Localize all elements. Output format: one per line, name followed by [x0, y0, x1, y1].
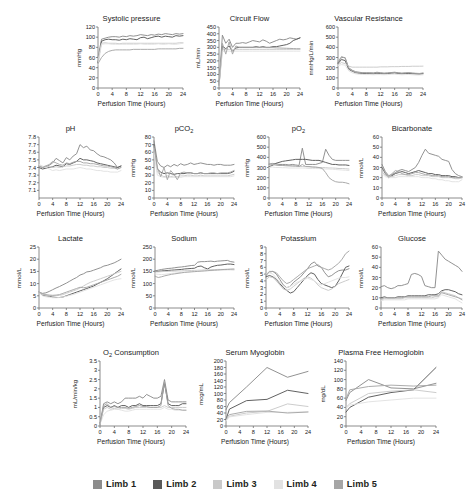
- x-tick-label: 4: [161, 311, 175, 317]
- x-tick-label: 16: [428, 201, 442, 207]
- panel-lactate: Lactate051015202504812162024mmol/LPerfus…: [14, 234, 127, 334]
- x-tick-label: 4: [354, 429, 368, 435]
- x-tick-label: 0: [93, 429, 107, 435]
- series-line: [219, 51, 300, 86]
- x-axis-label-sodium: Perfusion Time (Hours): [128, 320, 240, 327]
- x-tick-label: 4: [105, 91, 119, 97]
- x-tick-label: 24: [179, 429, 193, 435]
- x-tick-label: 12: [415, 201, 429, 207]
- x-tick-label: 0: [331, 91, 345, 97]
- x-tick-label: 24: [416, 91, 430, 97]
- x-tick-label: 16: [274, 429, 288, 435]
- x-tick-label: 24: [455, 311, 469, 317]
- y-tick-label: 3: [70, 367, 97, 373]
- x-tick-label: 0: [148, 311, 162, 317]
- y-tick-label: 7.6: [14, 149, 36, 155]
- legend-swatch-icon: [213, 480, 222, 489]
- figure-legend: Limb 1Limb 2Limb 3Limb 4Limb 5: [0, 479, 470, 489]
- x-axis-label-circuit-flow: Perfusion Time (Hours): [193, 100, 306, 107]
- x-tick-label: 12: [260, 429, 274, 435]
- x-tick-label: 24: [455, 201, 469, 207]
- series-line: [346, 398, 436, 408]
- x-tick-label: 0: [219, 429, 233, 435]
- x-tick-label: 20: [329, 201, 343, 207]
- legend-item-5: Limb 5: [334, 479, 377, 489]
- y-tick-label: 7.8: [14, 134, 36, 140]
- multi-panel-figure: Systolic pressure02040608010012004812162…: [0, 0, 470, 501]
- y-tick-label: 80: [128, 134, 151, 140]
- x-tick-label: 12: [374, 91, 388, 97]
- legend-swatch-icon: [274, 480, 283, 489]
- x-axis-label-bicarbonate: Perfusion Time (Hours): [356, 210, 468, 217]
- x-tick-label: 20: [402, 91, 416, 97]
- x-axis-label-vascular-resistance: Perfusion Time (Hours): [306, 100, 431, 107]
- panel-serum-myoglobin: Serum Myoglobin0204060801001201401601802…: [196, 348, 314, 452]
- x-tick-label: 8: [359, 91, 373, 97]
- y-axis-label-circuit-flow: mL/min: [194, 47, 201, 67]
- series-line: [100, 380, 186, 425]
- x-tick-label: 16: [87, 201, 101, 207]
- x-tick-label: 16: [315, 201, 329, 207]
- x-axis-label-pco2: Perfusion Time (Hours): [128, 210, 240, 217]
- x-tick-label: 12: [415, 311, 429, 317]
- x-tick-label: 24: [227, 311, 241, 317]
- x-tick-label: 16: [266, 91, 280, 97]
- series-line: [338, 58, 423, 74]
- x-axis-label-serum-myoglobin: Perfusion Time (Hours): [196, 438, 314, 445]
- x-tick-label: 8: [401, 311, 415, 317]
- legend-swatch-icon: [153, 480, 162, 489]
- panel-systolic-pressure: Systolic pressure02040608010012004812162…: [74, 14, 189, 114]
- x-tick-label: 20: [100, 311, 114, 317]
- y-tick-label: 0.5: [70, 414, 97, 420]
- x-tick-label: 8: [289, 201, 303, 207]
- panel-plasma-free-hemoglobin: Plasma Free Hemoglobin020406080100120140…: [318, 348, 444, 452]
- x-tick-label: 4: [275, 201, 289, 207]
- x-axis-label-systolic-pressure: Perfusion Time (Hours): [74, 100, 189, 107]
- y-tick-label: 40: [196, 410, 223, 416]
- y-tick-label: 25: [14, 244, 36, 250]
- x-tick-label: 0: [32, 311, 46, 317]
- series-line: [219, 49, 300, 86]
- panel-ph: pH07.17.27.37.47.57.67.77.804812162024Pe…: [14, 124, 127, 224]
- x-tick-label: 16: [150, 429, 164, 435]
- x-tick-label: 16: [148, 91, 162, 97]
- series-line: [154, 141, 234, 168]
- series-line: [219, 35, 300, 85]
- y-tick-label: 20: [196, 417, 223, 423]
- x-tick-label: 24: [342, 201, 356, 207]
- x-tick-label: 8: [174, 201, 188, 207]
- x-tick-label: 20: [328, 311, 342, 317]
- series-line: [100, 407, 186, 424]
- y-tick-label: 7.2: [14, 180, 36, 186]
- panel-o2-consumption: O2 Consumption00.511.522.533.50481216202…: [70, 348, 192, 452]
- y-tick-label: 1: [242, 298, 263, 304]
- panel-pco2: pCO20102030405060708004812162024mmHgPerf…: [128, 124, 240, 224]
- y-tick-label: 350: [193, 38, 216, 44]
- series-line: [154, 146, 234, 180]
- y-tick-label: 70: [128, 142, 151, 148]
- x-tick-label: 4: [160, 201, 174, 207]
- series-line: [346, 380, 436, 401]
- x-tick-label: 24: [114, 201, 128, 207]
- panel-glucose: Glucose010203040506004812162024mmol/LPer…: [356, 234, 468, 334]
- y-tick-label: 20: [74, 75, 95, 81]
- panel-potassium: Potassium012345678904812162024mmol/LPerf…: [242, 234, 355, 334]
- x-tick-label: 24: [342, 311, 356, 317]
- y-axis-label-sodium: mmol/L: [129, 267, 136, 287]
- y-tick-label: 7.7: [14, 142, 36, 148]
- y-tick-label: 60: [356, 244, 378, 250]
- legend-label: Limb 1: [106, 479, 136, 489]
- x-tick-label: 20: [442, 201, 456, 207]
- x-tick-label: 24: [227, 201, 241, 207]
- series-line: [226, 368, 308, 410]
- y-tick-label: 7.1: [14, 187, 36, 193]
- x-tick-label: 24: [301, 429, 315, 435]
- x-tick-label: 8: [287, 311, 301, 317]
- y-tick-label: 7.4: [14, 165, 36, 171]
- x-tick-label: 0: [259, 311, 273, 317]
- y-axis-label-systolic-pressure: mmHg: [75, 48, 82, 66]
- y-tick-label: 120: [318, 367, 343, 373]
- y-tick-label: 140: [318, 358, 343, 364]
- y-tick-label: 200: [128, 256, 152, 262]
- y-tick-label: 50: [356, 144, 379, 150]
